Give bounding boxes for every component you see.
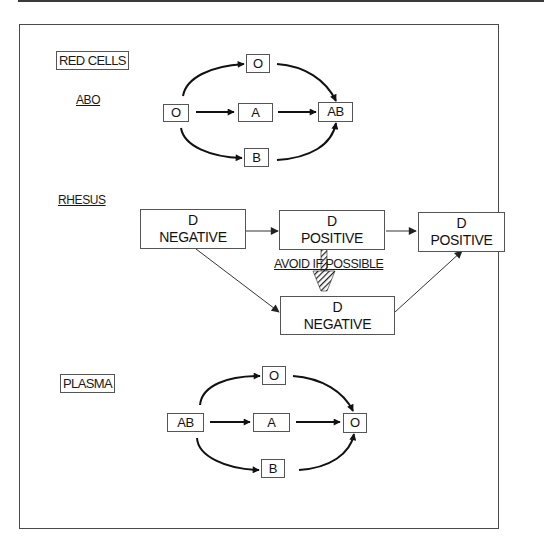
rhesus-node-d-negative-bottom: D NEGATIVE xyxy=(280,296,395,335)
red-cells-title: RED CELLS xyxy=(56,51,129,70)
abo-node-source-o: O xyxy=(163,104,189,122)
node-line2: POSITIVE xyxy=(301,230,363,247)
node-line1: D xyxy=(327,213,337,230)
node-label: A xyxy=(267,415,275,431)
rhesus-node-d-negative: D NEGATIVE xyxy=(140,209,246,249)
node-line2: NEGATIVE xyxy=(304,316,371,333)
node-line1: D xyxy=(457,215,467,232)
plasma-node-ab: AB xyxy=(167,413,204,432)
node-label: AB xyxy=(327,104,344,120)
avoid-if-possible-annotation: AVOID IF POSSIBLE xyxy=(274,257,383,271)
node-line2: POSITIVE xyxy=(430,232,492,249)
node-label: O xyxy=(253,56,263,72)
rhesus-label: RHESUS xyxy=(58,193,106,207)
node-label: O xyxy=(269,368,279,384)
node-label: B xyxy=(252,150,260,166)
plasma-node-top-o: O xyxy=(262,366,286,385)
node-line2: NEGATIVE xyxy=(159,229,226,246)
node-label: AB xyxy=(177,415,194,431)
node-label: A xyxy=(251,105,259,121)
node-label: O xyxy=(350,415,360,431)
abo-label: ABO xyxy=(76,93,100,107)
plasma-node-a: A xyxy=(253,413,290,432)
plasma-title: PLASMA xyxy=(60,374,115,393)
node-label: B xyxy=(269,461,277,477)
node-line1: D xyxy=(188,212,198,229)
plasma-node-b: B xyxy=(261,459,285,478)
node-line1: D xyxy=(333,299,343,316)
abo-node-a: A xyxy=(238,103,273,122)
abo-node-b: B xyxy=(244,148,269,167)
abo-node-ab: AB xyxy=(318,102,353,122)
rhesus-node-d-positive: D POSITIVE xyxy=(279,210,385,250)
plasma-node-o: O xyxy=(343,413,367,433)
node-label: O xyxy=(171,105,181,121)
abo-node-top-o: O xyxy=(246,54,270,73)
rhesus-node-d-positive-right: D POSITIVE xyxy=(418,212,505,252)
